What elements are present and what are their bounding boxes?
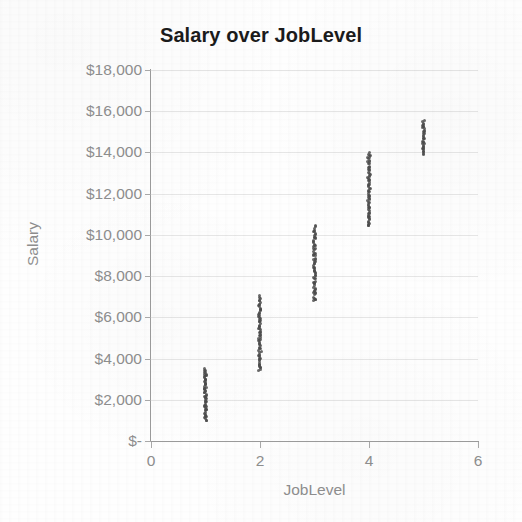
y-axis-tick-label: $18,000: [46, 62, 142, 78]
y-axis-tick: [145, 111, 151, 112]
scatter-point: [423, 130, 426, 133]
scatter-point: [260, 350, 263, 353]
y-axis-tick-label: $14,000: [46, 144, 142, 160]
gridline-horizontal: [151, 400, 478, 401]
y-axis-tick-label: $10,000: [46, 227, 142, 243]
y-axis-tick-label: $4,000: [46, 351, 142, 367]
x-axis-tick-label: 0: [131, 452, 171, 470]
y-axis-tick-label: $6,000: [46, 309, 142, 325]
gridline-horizontal: [151, 194, 478, 195]
gridline-horizontal: [151, 70, 478, 71]
y-axis-tick: [145, 276, 151, 277]
x-axis-tick-label: 4: [349, 452, 389, 470]
x-axis-tick: [151, 442, 152, 448]
gridline-horizontal: [151, 317, 478, 318]
y-axis-tick: [145, 359, 151, 360]
gridline-horizontal: [151, 111, 478, 112]
y-axis-tick: [145, 235, 151, 236]
x-axis-tick-label: 6: [458, 452, 498, 470]
x-axis-tick-label: 2: [240, 452, 280, 470]
chart-figure: Salary over JobLevel $-$2,000$4,000$6,00…: [0, 0, 522, 522]
y-axis-title: Salary: [24, 199, 42, 289]
y-axis-tick: [145, 400, 151, 401]
y-axis-tick-label: $2,000: [46, 392, 142, 408]
y-axis-tick-label: $8,000: [46, 268, 142, 284]
y-axis-tick-labels: $-$2,000$4,000$6,000$8,000$10,000$12,000…: [42, 0, 142, 522]
scatter-point: [312, 296, 315, 299]
y-axis-tick: [145, 70, 151, 71]
y-axis-tick-label: $12,000: [46, 186, 142, 202]
x-axis-tick: [478, 442, 479, 448]
y-axis-tick: [145, 317, 151, 318]
scatter-point: [367, 221, 370, 224]
y-axis-tick-label: $16,000: [46, 103, 142, 119]
gridline-horizontal: [151, 152, 478, 153]
y-axis-tick-label: $-: [46, 433, 142, 449]
gridline-horizontal: [151, 359, 478, 360]
scatter-point: [368, 165, 371, 168]
x-axis-title: JobLevel: [151, 481, 478, 499]
x-axis-tick: [260, 442, 261, 448]
y-axis-tick: [145, 194, 151, 195]
y-axis-tick: [145, 152, 151, 153]
x-axis-tick: [369, 442, 370, 448]
x-axis-line: [150, 441, 479, 442]
y-axis-line: [150, 69, 151, 442]
